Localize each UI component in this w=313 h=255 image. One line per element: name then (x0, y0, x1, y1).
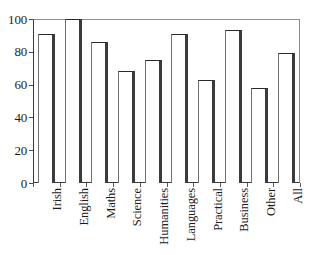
x-tick-mark (60, 183, 61, 187)
y-tick-label: 0 (21, 177, 27, 190)
bar (91, 42, 108, 183)
x-tick-mark (247, 183, 248, 187)
x-tick-mark (86, 183, 87, 187)
x-tick-mark (113, 183, 114, 187)
y-tick-label: 20 (14, 144, 27, 157)
x-tick-mark (300, 183, 301, 187)
x-axis: IrishEnglishMathsScienceHumanitiesLangua… (33, 188, 300, 255)
x-tick-label: Languages (185, 188, 198, 241)
x-tick-label: Practical (212, 188, 225, 231)
bar (171, 34, 188, 183)
x-tick-label: Irish (51, 188, 64, 210)
bar (118, 71, 135, 183)
bar (251, 88, 268, 183)
bars-layer (33, 19, 300, 183)
x-tick-mark (167, 183, 168, 187)
bar (198, 80, 215, 183)
x-tick-mark (273, 183, 274, 187)
y-tick-label: 60 (14, 78, 27, 91)
y-tick-label: 40 (14, 111, 27, 124)
y-tick-label: 80 (14, 45, 27, 58)
x-tick-mark (140, 183, 141, 187)
x-tick-label: Business (238, 188, 251, 232)
y-axis: 020406080100 (0, 0, 32, 255)
bar (225, 30, 242, 183)
x-tick-label: Humanities (158, 188, 171, 245)
x-tick-mark (193, 183, 194, 187)
x-tick-label: Other (265, 188, 278, 216)
x-tick-label: Maths (105, 188, 118, 219)
x-tick-mark (220, 183, 221, 187)
x-tick-label: English (78, 188, 91, 226)
bar-chart: 020406080100 IrishEnglishMathsScienceHum… (0, 0, 313, 255)
bar (65, 19, 82, 183)
bar (38, 34, 55, 183)
x-tick-label: Science (131, 188, 144, 226)
x-tick-mark (33, 183, 34, 187)
bar (278, 53, 295, 183)
x-tick-label: All (292, 188, 305, 204)
bar (145, 60, 162, 183)
y-tick-label: 100 (8, 13, 27, 26)
